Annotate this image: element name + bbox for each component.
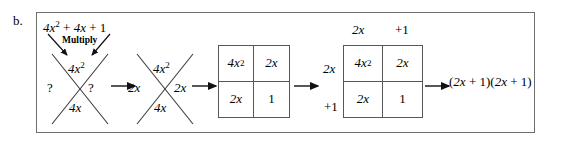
step1-x-bottom: 4x [69, 101, 81, 114]
part-label: b. [13, 14, 23, 27]
step4-row-header-0: 2x [323, 62, 335, 75]
step4-area-grid: 4x2 2x 2x 1 [343, 45, 423, 118]
step3-cell-r1c0: 2x [219, 82, 254, 118]
step4-cell-r0c0: 4x2 [344, 46, 383, 82]
result-expression: (2x + 1)(2x + 1) [449, 75, 532, 88]
multiply-label: Multiply [62, 36, 97, 46]
step4-cell-r1c1: 1 [383, 82, 422, 118]
step4-cell-r0c1: 2x [383, 46, 422, 82]
step3-cell-r0c0: 4x2 [219, 46, 254, 82]
figure-canvas: b. 4x2 + 4x + 1 Multiply 4x2 ? ? 4x 4x2 … [0, 0, 561, 145]
step1-x-right: ? [88, 81, 94, 94]
step4-col-header-1: +1 [395, 23, 409, 36]
step3-cell-r0c1: 2x [254, 46, 289, 82]
step1-x-top: 4x2 [68, 61, 85, 75]
step4-row-header-1: +1 [324, 100, 338, 113]
step3-area-grid: 4x2 2x 2x 1 [218, 45, 290, 118]
step2-x-top: 4x2 [153, 61, 170, 75]
step2-x-left: 2x [128, 81, 140, 94]
step3-cell-r1c1: 1 [254, 82, 289, 118]
step2-x-right: 2x [174, 81, 186, 94]
step1-expression: 4x2 + 4x + 1 [43, 20, 106, 34]
step2-x-bottom: 4x [154, 101, 166, 114]
step4-col-header-0: 2x [352, 23, 364, 36]
step1-x-left: ? [47, 81, 53, 94]
step4-cell-r1c0: 2x [344, 82, 383, 118]
